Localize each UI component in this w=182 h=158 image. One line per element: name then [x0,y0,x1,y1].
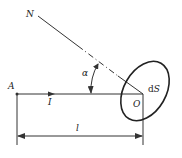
label-a: A [7,81,15,91]
area-element-ellipse [111,53,179,129]
label-current: I [47,97,52,107]
angle-arc [91,64,98,93]
label-area-s: S [154,84,160,94]
label-length: l [76,123,79,133]
current-element-diagram: N A I α O dS l [0,0,182,158]
current-arrow-icon [48,92,55,97]
label-n: N [25,9,35,19]
label-area-element: dS [148,84,160,94]
normal-line [38,16,143,94]
label-origin: O [133,99,141,109]
label-alpha: α [82,68,88,78]
